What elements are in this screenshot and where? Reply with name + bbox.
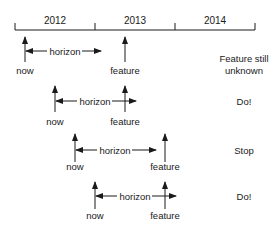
scenario-3: horizon now feature Stop	[66, 134, 253, 172]
scenario-4: horizon now feature Do!	[86, 182, 251, 221]
year-label-2014: 2014	[204, 15, 227, 26]
now-label: now	[66, 161, 84, 172]
now-label: now	[86, 210, 104, 221]
horizon-diagram: 2012 2013 2014 horizon now feature Featu…	[0, 0, 278, 229]
scenario-2: horizon now feature Do!	[46, 86, 251, 127]
scenario-1: horizon now feature Feature still unknow…	[16, 37, 268, 76]
outcome-label: Stop	[234, 145, 254, 156]
feature-label: feature	[110, 116, 140, 127]
horizon-label: horizon	[119, 191, 150, 202]
outcome-label-line2: unknown	[225, 65, 263, 76]
feature-label: feature	[150, 210, 180, 221]
outcome-label: Do!	[237, 96, 252, 107]
horizon-label: horizon	[49, 46, 80, 57]
feature-label: feature	[110, 65, 140, 76]
horizon-label: horizon	[79, 96, 110, 107]
timeline: 2012 2013 2014	[15, 15, 255, 30]
now-label: now	[16, 65, 34, 76]
feature-label: feature	[150, 161, 180, 172]
outcome-label: Do!	[237, 191, 252, 202]
horizon-label: horizon	[99, 145, 130, 156]
year-label-2012: 2012	[44, 15, 67, 26]
now-label: now	[46, 116, 64, 127]
year-label-2013: 2013	[124, 15, 147, 26]
outcome-label: Feature still	[219, 53, 268, 64]
